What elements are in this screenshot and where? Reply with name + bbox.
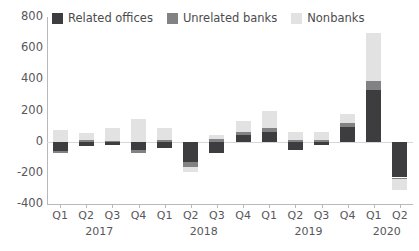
x-axis-tick-mark — [348, 204, 349, 208]
y-axis-tick-label: 0 — [36, 136, 43, 148]
x-axis-tick-label: Q1 — [366, 210, 382, 221]
x-axis-tick-label: Q2 — [392, 210, 408, 221]
y-axis-tick-label: 400 — [21, 74, 43, 86]
x-axis-tick-label: Q2 — [183, 210, 199, 221]
bar-segment-nonbanks — [131, 119, 146, 142]
x-axis-tick-mark — [86, 204, 87, 208]
x-axis-tick-mark — [400, 204, 401, 208]
bar-segment-nonbanks — [392, 179, 407, 190]
x-axis-tick-mark — [60, 204, 61, 208]
bar-segment-nonbanks — [366, 33, 381, 81]
x-axis-tick-mark — [165, 204, 166, 208]
plot-area — [47, 17, 413, 204]
x-axis-tick-label: Q3 — [105, 210, 121, 221]
bar-segment-unrelated-banks — [105, 141, 120, 142]
bar-group[interactable] — [79, 17, 94, 204]
bar-segment-unrelated-banks — [314, 140, 329, 142]
bar-segment-related-offices — [340, 127, 355, 142]
x-axis-line — [47, 204, 413, 205]
bar-segment-nonbanks — [262, 111, 277, 128]
x-axis-tick-mark — [139, 204, 140, 208]
bar-segment-unrelated-banks — [340, 123, 355, 127]
bar-segment-unrelated-banks — [288, 140, 303, 142]
bar-segment-related-offices — [105, 142, 120, 145]
bar-segment-nonbanks — [314, 132, 329, 141]
bar-group[interactable] — [340, 17, 355, 204]
x-axis-tick-label: Q1 — [157, 210, 173, 221]
bar-segment-unrelated-banks — [131, 150, 146, 153]
x-axis-tick-mark — [217, 204, 218, 208]
x-axis-year-label: 2017 — [85, 226, 113, 237]
bar-segment-related-offices — [209, 142, 224, 154]
x-axis-tick-mark — [269, 204, 270, 208]
bar-segment-related-offices — [131, 142, 146, 151]
bar-segment-unrelated-banks — [53, 151, 68, 153]
y-axis-tick-label: -200 — [17, 167, 43, 179]
y-axis-tick-label: -400 — [17, 198, 43, 210]
bar-segment-unrelated-banks — [366, 81, 381, 90]
bar-group[interactable] — [236, 17, 251, 204]
x-axis-year-label: 2018 — [190, 226, 218, 237]
bar-segment-unrelated-banks — [79, 140, 94, 142]
bar-segment-related-offices — [236, 135, 251, 141]
bar-group[interactable] — [105, 17, 120, 204]
x-axis-tick-mark — [374, 204, 375, 208]
bar-segment-related-offices — [183, 142, 198, 162]
bar-group[interactable] — [392, 17, 407, 204]
bar-segment-nonbanks — [79, 133, 94, 140]
bar-segment-related-offices — [53, 142, 68, 151]
bar-segment-nonbanks — [157, 128, 172, 140]
x-axis-tick-label: Q2 — [288, 210, 304, 221]
bar-segment-unrelated-banks — [262, 128, 277, 133]
bar-segment-nonbanks — [105, 128, 120, 141]
y-axis-tick-label: 800 — [21, 11, 43, 23]
y-axis-labels: 8006004002000-200-400 — [0, 0, 43, 251]
bar-segment-nonbanks — [209, 135, 224, 139]
x-axis-tick-mark — [295, 204, 296, 208]
bar-group[interactable] — [366, 17, 381, 204]
bar-segment-related-offices — [157, 142, 172, 148]
x-axis-tick-label: Q4 — [340, 210, 356, 221]
bar-segment-unrelated-banks — [209, 139, 224, 141]
bar-group[interactable] — [183, 17, 198, 204]
chart-container: Related officesUnrelated banksNonbanks 8… — [0, 0, 419, 251]
x-axis-tick-mark — [243, 204, 244, 208]
x-axis-tick-label: Q2 — [78, 210, 94, 221]
bar-group[interactable] — [209, 17, 224, 204]
y-axis-tick-label: 200 — [21, 105, 43, 117]
bar-segment-unrelated-banks — [157, 140, 172, 142]
x-axis-year-label: 2019 — [294, 226, 322, 237]
bar-group[interactable] — [262, 17, 277, 204]
bar-group[interactable] — [288, 17, 303, 204]
bar-group[interactable] — [53, 17, 68, 204]
x-axis-tick-mark — [191, 204, 192, 208]
x-axis-tick-mark — [112, 204, 113, 208]
bar-segment-related-offices — [288, 142, 303, 151]
x-axis-tick-label: Q4 — [235, 210, 251, 221]
x-axis-tick-label: Q3 — [209, 210, 225, 221]
bar-group[interactable] — [131, 17, 146, 204]
bar-segment-related-offices — [392, 142, 407, 178]
x-axis-tick-label: Q3 — [314, 210, 330, 221]
bar-segment-nonbanks — [53, 130, 68, 142]
x-axis-tick-label: Q4 — [131, 210, 147, 221]
y-axis-tick-label: 600 — [21, 42, 43, 54]
bar-segment-related-offices — [79, 142, 94, 146]
bar-segment-related-offices — [314, 142, 329, 145]
bar-segment-nonbanks — [236, 121, 251, 132]
x-axis-tick-mark — [322, 204, 323, 208]
bar-segment-nonbanks — [340, 114, 355, 123]
bar-group[interactable] — [157, 17, 172, 204]
bar-segment-unrelated-banks — [236, 132, 251, 136]
x-axis-tick-label: Q1 — [261, 210, 277, 221]
bar-segment-related-offices — [262, 132, 277, 141]
bar-segment-related-offices — [366, 90, 381, 141]
x-axis-year-label: 2020 — [373, 226, 401, 237]
bar-segment-nonbanks — [183, 167, 198, 172]
bar-segment-nonbanks — [288, 132, 303, 140]
bar-group[interactable] — [314, 17, 329, 204]
x-axis-tick-label: Q1 — [52, 210, 68, 221]
